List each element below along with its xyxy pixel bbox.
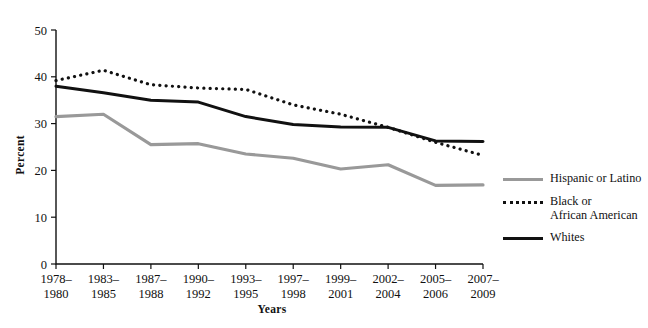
x-axis-tick-label: 1987–1988 [135, 272, 167, 301]
legend-item-black-or-african-american: Black or African American [503, 195, 648, 222]
x-axis-tick-label: 2007–2009 [467, 272, 499, 301]
series-line-black-or-african-american [56, 70, 483, 155]
x-axis-tick-label: 1999–2001 [325, 272, 357, 301]
x-axis-tick-label: 2002–2004 [372, 272, 404, 301]
line-chart: 01020304050 1978–19801983–19851987–19881… [0, 0, 648, 328]
legend-swatch-whites [503, 231, 543, 245]
series-line-whites [56, 86, 483, 141]
x-axis-title: Years [258, 303, 287, 315]
y-axis-title: Percent [14, 135, 26, 175]
y-axis-tick-label: 0 [41, 258, 47, 272]
x-axis-tick-label: 1983–1985 [88, 272, 120, 301]
legend-item-hispanic-or-latino: Hispanic or Latino [503, 172, 648, 186]
legend-label-black-or-african-american: Black or African American [550, 195, 638, 222]
y-axis-tick-label: 30 [35, 117, 48, 131]
y-axis-tick-label: 10 [35, 211, 48, 225]
y-axis-tick-label: 50 [35, 24, 48, 38]
y-axis-tick-label: 20 [35, 164, 48, 178]
x-axis-tick-label: 1997–1998 [278, 272, 310, 301]
legend-swatch-black-or-african-american [503, 195, 543, 209]
chart-canvas: 01020304050 1978–19801983–19851987–19881… [0, 0, 648, 328]
x-axis-tick-label: 2005–2006 [420, 272, 452, 301]
x-axis-tick-label: 1990–1992 [183, 272, 215, 301]
axis-lines [56, 30, 483, 264]
legend-label-whites: Whites [550, 231, 585, 245]
x-axis-tick-label: 1993–1995 [230, 272, 262, 301]
y-axis-tick-label: 40 [35, 70, 48, 84]
x-axis-tick-label: 1978–1980 [40, 272, 72, 301]
legend-swatch-hispanic-or-latino [503, 172, 543, 186]
chart-legend: Hispanic or Latino Black or African Amer… [503, 172, 648, 254]
legend-item-whites: Whites [503, 231, 648, 245]
legend-label-hispanic-or-latino: Hispanic or Latino [550, 172, 641, 186]
series-line-hispanic-or-latino [56, 114, 483, 185]
